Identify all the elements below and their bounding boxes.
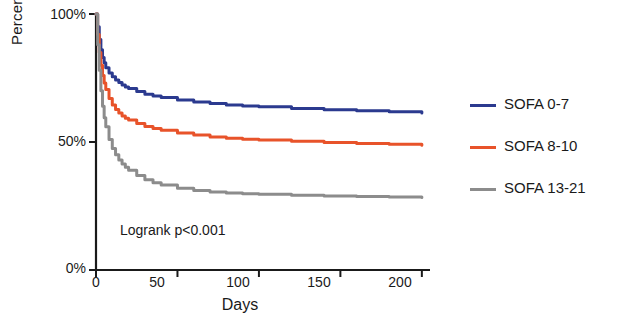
legend-label-sofa-0-7: SOFA 0-7 <box>504 95 569 112</box>
legend-entry-sofa-8-10: SOFA 8-10 <box>470 134 620 176</box>
legend-entry-sofa-0-7: SOFA 0-7 <box>470 92 620 134</box>
chart-legend: SOFA 0-7 SOFA 8-10 SOFA 13-21 <box>470 92 620 218</box>
y-tick-label-100: 100% <box>28 6 86 22</box>
legend-swatch-icon <box>470 188 496 191</box>
legend-label-sofa-8-10: SOFA 8-10 <box>504 137 577 154</box>
logrank-annotation: Logrank p<0.001 <box>120 222 225 238</box>
x-tick-label-0: 0 <box>76 274 116 290</box>
series-line <box>96 14 422 113</box>
x-tick-label-200: 200 <box>380 274 420 290</box>
x-tick-label-100: 100 <box>218 274 258 290</box>
legend-entry-sofa-13-21: SOFA 13-21 <box>470 176 620 218</box>
x-axis-label: Days <box>160 296 320 314</box>
y-axis-label: Percent survival <box>8 0 25 70</box>
x-tick-label-50: 50 <box>137 274 177 290</box>
legend-label-sofa-13-21: SOFA 13-21 <box>504 179 586 196</box>
legend-swatch-icon <box>470 146 496 149</box>
y-tick-label-50: 50% <box>36 133 86 149</box>
series-line <box>96 14 422 145</box>
series-lines <box>96 14 422 198</box>
x-tick-label-150: 150 <box>299 274 339 290</box>
legend-swatch-icon <box>470 104 496 107</box>
survival-chart-figure: Percent survival Days 0% 50% 100% 0 50 1… <box>0 0 628 328</box>
